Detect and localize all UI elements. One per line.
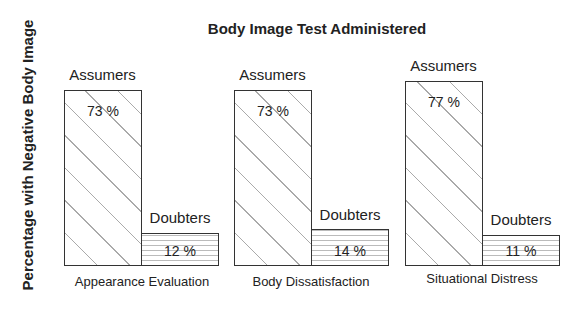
category-label: Body Dissatisfaction xyxy=(226,274,396,289)
series-label-doubters: Doubters xyxy=(141,209,219,226)
bar-value: 11 % xyxy=(483,243,559,259)
bar-assumers-situational: 77 % xyxy=(405,81,483,266)
bar-value: 14 % xyxy=(312,243,388,259)
category-label: Appearance Evaluation xyxy=(57,274,227,289)
bar-value: 12 % xyxy=(142,243,218,259)
category-label: Situational Distress xyxy=(397,271,567,286)
bar-doubters-situational: 11 % xyxy=(482,235,560,266)
bar-doubters-dissatisfaction: 14 % xyxy=(311,229,389,266)
chart-title: Body Image Test Administered xyxy=(0,20,584,37)
series-label-assumers: Assumers xyxy=(234,66,311,83)
series-label-doubters: Doubters xyxy=(311,206,389,223)
series-label-assumers: Assumers xyxy=(64,66,141,83)
bar-assumers-appearance: 73 % xyxy=(64,90,142,266)
bar-assumers-dissatisfaction: 73 % xyxy=(234,90,312,266)
series-label-assumers: Assumers xyxy=(405,57,482,74)
bar-doubters-appearance: 12 % xyxy=(141,233,219,266)
y-axis-label: Percentage with Negative Body Image xyxy=(19,20,36,291)
series-label-doubters: Doubters xyxy=(482,211,560,228)
bar-value: 77 % xyxy=(406,94,482,110)
bar-value: 73 % xyxy=(65,103,141,119)
bar-value: 73 % xyxy=(235,103,311,119)
